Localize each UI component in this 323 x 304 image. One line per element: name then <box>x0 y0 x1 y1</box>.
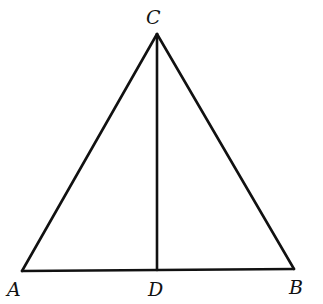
label-a: A <box>5 278 21 300</box>
triangle-figure: C A D B <box>0 0 323 304</box>
segment-ac <box>22 34 157 271</box>
geometry-diagram: C A D B <box>0 0 323 304</box>
label-c: C <box>146 6 161 28</box>
segment-cb <box>157 34 294 269</box>
label-b: B <box>288 276 303 298</box>
label-d: D <box>147 278 163 300</box>
